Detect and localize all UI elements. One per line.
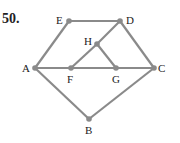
vertex-label-F: F xyxy=(67,73,73,85)
vertex-label-G: G xyxy=(112,73,120,85)
graph-diagram: EDHAFGCB xyxy=(0,0,180,143)
vertex-label-H: H xyxy=(84,35,92,47)
edge-B-C xyxy=(89,68,154,119)
vertex-B xyxy=(86,116,92,122)
edge-A-B xyxy=(35,68,89,119)
nodes-group xyxy=(32,18,157,122)
edge-D-H xyxy=(97,21,120,44)
vertex-F xyxy=(68,65,74,71)
vertex-label-D: D xyxy=(126,14,134,26)
vertex-E xyxy=(66,18,72,24)
edge-A-E xyxy=(35,21,69,68)
edge-H-G xyxy=(97,44,116,68)
edges-group xyxy=(35,21,154,119)
vertex-H xyxy=(94,41,100,47)
vertex-label-C: C xyxy=(158,62,165,74)
vertex-G xyxy=(113,65,119,71)
vertex-label-E: E xyxy=(56,14,63,26)
edge-D-C xyxy=(120,21,154,68)
vertex-label-A: A xyxy=(22,62,30,74)
vertex-D xyxy=(117,18,123,24)
vertex-label-B: B xyxy=(85,124,92,136)
edge-H-F xyxy=(71,44,97,68)
vertex-C xyxy=(151,65,157,71)
vertex-A xyxy=(32,65,38,71)
